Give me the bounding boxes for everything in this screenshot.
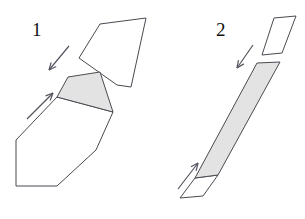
figure-2-upper-slab	[262, 16, 296, 55]
figure-2-label: 2	[216, 20, 226, 39]
figure-1-label: 1	[32, 20, 42, 39]
figure-1-lower-body	[16, 97, 113, 186]
figure-1-group	[16, 18, 146, 186]
figure-1-arrow-down-left-icon	[49, 46, 69, 70]
figure-2-group	[178, 16, 296, 198]
diagram-svg	[0, 0, 305, 219]
figure-2-main-slab-shaded	[195, 62, 280, 178]
diagram-canvas: 1 2	[0, 0, 305, 219]
figure-2-arrow-down-left-icon	[237, 45, 253, 68]
